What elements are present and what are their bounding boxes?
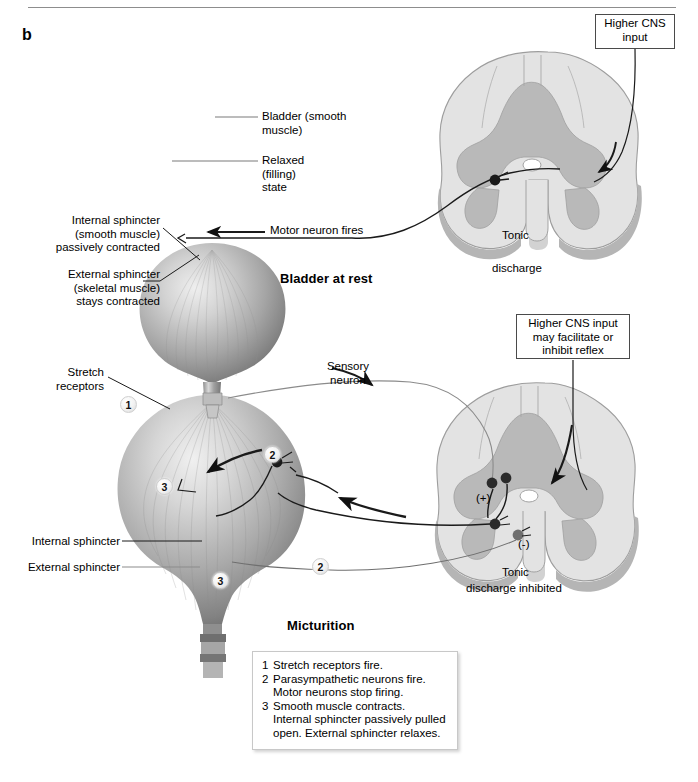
label-external-sphincter-micturition: External sphincter <box>8 561 120 575</box>
legend-item-1: 1 Stretch receptors fire. <box>262 659 448 673</box>
label-minus-sign: (-) <box>518 538 530 552</box>
legend-text-2-cont-1: Motor neurons stop firing. <box>262 686 448 700</box>
legend-text-1: Stretch receptors fire. <box>273 659 448 673</box>
label-relaxed-filling-state: Relaxed (filling) state <box>262 154 357 195</box>
label-tonic-bottom: Tonic <box>502 566 529 580</box>
badge-step-2-parasympathetic: 2 <box>264 446 281 463</box>
legend-text-3-cont-2: open. External sphincter relaxes. <box>262 727 448 741</box>
label-motor-neuron-fires: Motor neuron fires <box>270 224 363 238</box>
label-plus-sign: (+) <box>476 492 490 506</box>
legend-text-3-cont-1: Internal sphincter passively pulled <box>262 713 448 727</box>
legend-number-2: 2 <box>262 673 273 687</box>
label-discharge-top: discharge <box>492 262 542 276</box>
label-tonic-top: Tonic <box>502 229 529 243</box>
legend-number-1: 1 <box>262 659 273 673</box>
legend-item-3: 3 Smooth muscle contracts. <box>262 700 448 714</box>
legend-box: 1 Stretch receptors fire. 2 Parasympathe… <box>252 651 458 750</box>
legend-number-3: 3 <box>262 700 273 714</box>
label-bladder-smooth-muscle: Bladder (smooth muscle) <box>262 110 357 137</box>
label-sensory-neuron: Sensory neuron <box>316 360 380 387</box>
label-external-sphincter-rest: External sphincter (skeletal muscle) sta… <box>10 268 160 309</box>
cns-box-top: Higher CNS input <box>595 14 675 49</box>
legend-text-3: Smooth muscle contracts. <box>273 700 448 714</box>
label-discharge-inhibited: discharge inhibited <box>466 582 562 596</box>
label-stretch-receptors: Stretch receptors <box>20 366 104 393</box>
badge-step-2-motor: 2 <box>312 558 329 575</box>
title-bladder-at-rest: Bladder at rest <box>280 271 373 286</box>
badge-step-3-smooth-muscle: 3 <box>156 478 173 495</box>
legend-item-2: 2 Parasympathetic neurons fire. <box>262 673 448 687</box>
legend-text-2: Parasympathetic neurons fire. <box>273 673 448 687</box>
title-micturition: Micturition <box>287 618 355 633</box>
cns-box-bottom: Higher CNS input may facilitate or inhib… <box>516 314 630 359</box>
badge-step-3-external-sphincter: 3 <box>212 572 229 589</box>
bladder-micturition <box>108 377 305 678</box>
figure-page: b <box>0 0 698 782</box>
badge-step-1-stretch: 1 <box>120 396 137 413</box>
label-internal-sphincter-rest: Internal sphincter (smooth muscle) passi… <box>10 214 160 255</box>
label-internal-sphincter-micturition: Internal sphincter <box>8 535 120 549</box>
